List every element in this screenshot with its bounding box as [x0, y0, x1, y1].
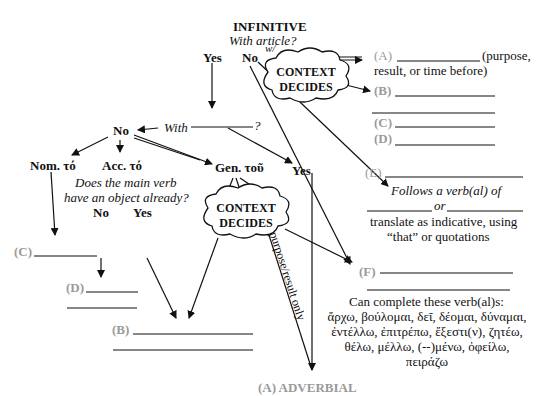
adverbial-label: (A) ADVERBIAL [258, 380, 357, 395]
cloud-context-decides-bottom: CONTEXT DECIDES [216, 201, 276, 231]
mid-yes: Yes [292, 163, 311, 178]
right-a-text1: (purpose, [482, 48, 531, 63]
object-yes: Yes [133, 205, 152, 220]
top-no: No [242, 50, 258, 65]
cloud2-line2: DECIDES [216, 216, 276, 231]
left-b-label: (B) [112, 322, 129, 337]
object-q-2: have an object already? [64, 190, 189, 205]
right-f-label: (F) [359, 264, 376, 279]
mid-no: No [113, 123, 129, 138]
right-c-label: (C) [374, 115, 392, 130]
case-nom: Nom. τό [30, 158, 76, 173]
with-suffix: ? [254, 118, 261, 133]
left-c-label: (C) [14, 244, 32, 259]
case-gen: Gen. τοῦ [215, 160, 264, 175]
e-follows: Follows a verb(al) of [391, 183, 501, 198]
verbs-line-3: θέλω, μέλλω, (--)μένω, ὀφείλω, [316, 339, 538, 354]
left-d-label: (D) [66, 280, 84, 295]
verbs-line-1: ἄρχω, βούλομαι, δεῖ, δέομαι, δύναμαι, [316, 309, 538, 324]
question-article: With article? [229, 33, 297, 48]
right-d-label: (D) [374, 131, 392, 146]
case-acc: Acc. τό [102, 158, 142, 173]
e-translate-2: “that” or quotations [387, 229, 490, 244]
title-infinitive: INFINITIVE [233, 19, 307, 34]
w-label: w/ [265, 41, 275, 56]
cloud1-line1: CONTEXT [276, 65, 336, 80]
verbs-line-4: πειράζω [316, 354, 538, 369]
with-prefix: With [164, 120, 188, 135]
object-no: No [93, 205, 109, 220]
verbs-line-2: ἐντέλλω, ἐπιτρέπω, ἔξεστι(ν), ζητέω, [316, 324, 538, 339]
cloud2-line1: CONTEXT [216, 201, 276, 216]
right-a-text2: result, or time before) [374, 63, 487, 78]
top-yes: Yes [203, 50, 222, 65]
right-b-label: (B) [374, 83, 391, 98]
complete-title: Can complete these verb(al)s: [349, 294, 504, 309]
cloud1-line2: DECIDES [276, 80, 336, 95]
object-q-1: Does the main verb [75, 175, 176, 190]
right-e-label: (E) [365, 165, 382, 180]
right-a-label: (A) [374, 48, 392, 63]
e-translate-1: translate as indicative, using [370, 214, 517, 229]
e-or: or [434, 198, 446, 213]
cloud-context-decides-top: CONTEXT DECIDES [276, 65, 336, 95]
